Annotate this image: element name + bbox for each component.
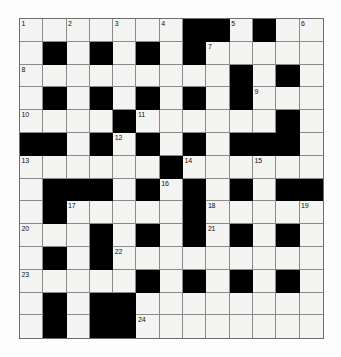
letter-cell[interactable] [300, 247, 323, 270]
letter-cell[interactable] [20, 201, 43, 224]
letter-cell[interactable] [113, 42, 136, 65]
letter-cell[interactable] [90, 270, 113, 293]
letter-cell[interactable] [206, 133, 229, 156]
letter-cell[interactable] [43, 156, 66, 179]
letter-cell[interactable] [136, 156, 159, 179]
letter-cell[interactable]: 12 [113, 133, 136, 156]
letter-cell[interactable] [90, 65, 113, 88]
letter-cell[interactable] [43, 224, 66, 247]
letter-cell[interactable]: 8 [20, 65, 43, 88]
letter-cell[interactable] [113, 87, 136, 110]
letter-cell[interactable] [300, 315, 323, 338]
letter-cell[interactable] [20, 179, 43, 202]
letter-cell[interactable]: 22 [113, 247, 136, 270]
letter-cell[interactable] [253, 270, 276, 293]
letter-cell[interactable] [113, 224, 136, 247]
letter-cell[interactable] [276, 247, 299, 270]
letter-cell[interactable] [300, 293, 323, 316]
letter-cell[interactable] [67, 42, 90, 65]
letter-cell[interactable] [276, 156, 299, 179]
letter-cell[interactable]: 10 [20, 110, 43, 133]
letter-cell[interactable] [160, 87, 183, 110]
letter-cell[interactable] [206, 65, 229, 88]
letter-cell[interactable] [160, 315, 183, 338]
letter-cell[interactable] [253, 247, 276, 270]
letter-cell[interactable]: 5 [230, 19, 253, 42]
letter-cell[interactable] [300, 133, 323, 156]
letter-cell[interactable]: 14 [183, 156, 206, 179]
letter-cell[interactable] [20, 87, 43, 110]
letter-cell[interactable] [253, 65, 276, 88]
letter-cell[interactable] [300, 224, 323, 247]
letter-cell[interactable] [253, 224, 276, 247]
letter-cell[interactable]: 7 [206, 42, 229, 65]
letter-cell[interactable] [160, 201, 183, 224]
letter-cell[interactable]: 21 [206, 224, 229, 247]
letter-cell[interactable] [136, 201, 159, 224]
letter-cell[interactable] [67, 270, 90, 293]
letter-cell[interactable]: 16 [160, 179, 183, 202]
letter-cell[interactable] [276, 293, 299, 316]
letter-cell[interactable] [136, 247, 159, 270]
letter-cell[interactable] [253, 179, 276, 202]
letter-cell[interactable] [253, 201, 276, 224]
letter-cell[interactable] [230, 42, 253, 65]
letter-cell[interactable] [300, 270, 323, 293]
letter-cell[interactable] [230, 110, 253, 133]
letter-cell[interactable] [160, 110, 183, 133]
letter-cell[interactable] [67, 293, 90, 316]
letter-cell[interactable] [300, 156, 323, 179]
letter-cell[interactable] [113, 270, 136, 293]
letter-cell[interactable] [183, 65, 206, 88]
letter-cell[interactable] [206, 293, 229, 316]
letter-cell[interactable] [113, 65, 136, 88]
letter-cell[interactable] [160, 42, 183, 65]
letter-cell[interactable]: 18 [206, 201, 229, 224]
letter-cell[interactable] [253, 110, 276, 133]
letter-cell[interactable] [67, 87, 90, 110]
letter-cell[interactable] [90, 110, 113, 133]
letter-cell[interactable] [183, 247, 206, 270]
letter-cell[interactable] [160, 247, 183, 270]
letter-cell[interactable] [160, 293, 183, 316]
letter-cell[interactable] [136, 293, 159, 316]
letter-cell[interactable] [183, 293, 206, 316]
letter-cell[interactable]: 3 [113, 19, 136, 42]
letter-cell[interactable] [67, 224, 90, 247]
letter-cell[interactable]: 4 [160, 19, 183, 42]
letter-cell[interactable] [90, 19, 113, 42]
letter-cell[interactable] [20, 42, 43, 65]
letter-cell[interactable]: 24 [136, 315, 159, 338]
letter-cell[interactable] [67, 156, 90, 179]
letter-cell[interactable] [230, 247, 253, 270]
crossword-grid[interactable]: 123456789101112131415161718192021222324 [19, 18, 324, 339]
letter-cell[interactable] [43, 110, 66, 133]
letter-cell[interactable] [276, 315, 299, 338]
letter-cell[interactable] [160, 224, 183, 247]
letter-cell[interactable] [230, 201, 253, 224]
letter-cell[interactable] [67, 110, 90, 133]
letter-cell[interactable] [90, 201, 113, 224]
letter-cell[interactable] [20, 315, 43, 338]
letter-cell[interactable] [43, 65, 66, 88]
letter-cell[interactable] [300, 42, 323, 65]
letter-cell[interactable] [206, 270, 229, 293]
letter-cell[interactable] [67, 315, 90, 338]
letter-cell[interactable] [90, 156, 113, 179]
letter-cell[interactable] [206, 247, 229, 270]
letter-cell[interactable] [20, 293, 43, 316]
letter-cell[interactable]: 1 [20, 19, 43, 42]
letter-cell[interactable] [300, 110, 323, 133]
letter-cell[interactable] [20, 247, 43, 270]
letter-cell[interactable] [276, 201, 299, 224]
letter-cell[interactable]: 11 [136, 110, 159, 133]
letter-cell[interactable] [160, 65, 183, 88]
letter-cell[interactable]: 20 [20, 224, 43, 247]
letter-cell[interactable] [276, 42, 299, 65]
letter-cell[interactable] [206, 110, 229, 133]
letter-cell[interactable] [230, 293, 253, 316]
letter-cell[interactable]: 9 [253, 87, 276, 110]
letter-cell[interactable] [206, 315, 229, 338]
letter-cell[interactable] [113, 179, 136, 202]
letter-cell[interactable] [230, 156, 253, 179]
